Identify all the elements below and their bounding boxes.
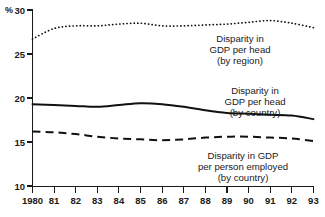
annotation-country-head-line-2: GDP per head	[224, 96, 285, 107]
annotation-country-head-line-1: Disparity in	[231, 85, 278, 96]
series-line-gdp-per-person-employed-by-country	[33, 131, 314, 141]
y-axis-unit-label: %	[5, 5, 13, 15]
annotation-gdp-per-head-by-country: Disparity in GDP per head (by country)	[224, 85, 285, 118]
annotation-region-line-1: Disparity in	[216, 33, 263, 44]
annotation-gdp-per-head-by-region: Disparity in GDP per head (by region)	[209, 33, 270, 66]
x-tick-label-90: 90	[243, 195, 254, 206]
x-tick-label-92: 92	[287, 195, 298, 206]
series-line-gdp-per-head-by-region	[33, 21, 314, 39]
y-tick-label-10: 10	[14, 181, 25, 192]
x-tick-label-93: 93	[308, 195, 319, 206]
line-chart: % 30 25 20 15 10 1980 81	[0, 0, 325, 217]
annotation-employed-line-3: (by country)	[218, 172, 269, 183]
annotation-employed-line-2: per person employed	[198, 161, 288, 172]
x-tick-label-84: 84	[114, 195, 125, 206]
annotation-employed-line-1: Disparity in GDP	[208, 150, 279, 161]
y-tick-label-15: 15	[14, 137, 25, 148]
x-tick-label-85: 85	[135, 195, 146, 206]
y-axis-labels: % 30 25 20 15 10	[5, 5, 26, 192]
y-tick-label-30: 30	[14, 5, 25, 16]
x-tick-label-82: 82	[70, 195, 81, 206]
annotation-gdp-per-person-employed: Disparity in GDP per person employed (by…	[198, 150, 288, 183]
x-axis-ticks	[33, 187, 314, 194]
x-tick-label-88: 88	[200, 195, 211, 206]
x-tick-label-89: 89	[222, 195, 233, 206]
x-tick-label-91: 91	[265, 195, 276, 206]
x-tick-label-81: 81	[49, 195, 60, 206]
x-tick-label-86: 86	[157, 195, 168, 206]
y-tick-label-25: 25	[14, 49, 25, 60]
annotation-region-line-3: (by region)	[217, 55, 263, 66]
chart-container: % 30 25 20 15 10 1980 81	[0, 0, 325, 217]
annotation-country-head-line-3: (by country)	[230, 107, 281, 118]
y-tick-label-20: 20	[14, 93, 25, 104]
annotation-region-line-2: GDP per head	[209, 44, 270, 55]
y-axis-ticks	[27, 10, 33, 186]
x-tick-label-83: 83	[92, 195, 103, 206]
x-axis-labels: 1980 81 82 83 84 85 86 87 88 89 90 91 92…	[22, 195, 319, 206]
x-tick-label-1980: 1980	[22, 195, 43, 206]
x-tick-label-87: 87	[179, 195, 190, 206]
